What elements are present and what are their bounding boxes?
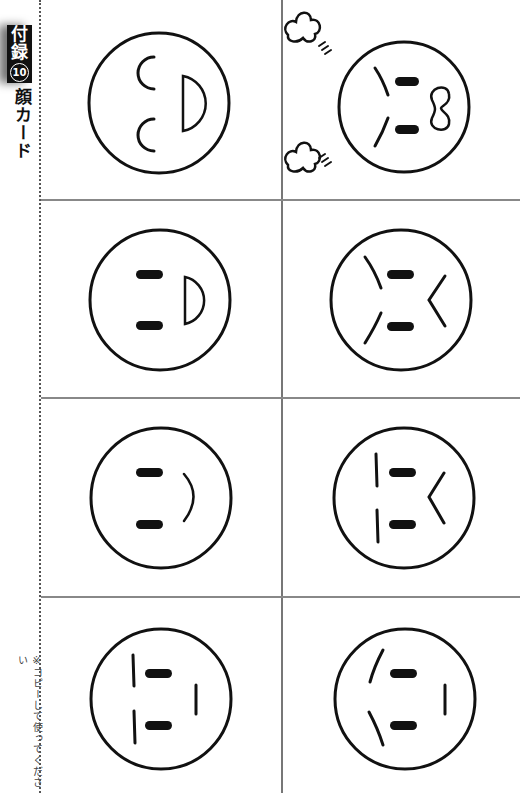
face-card-laughing bbox=[41, 0, 280, 198]
side-margin: 付 録 10 顔カード ※コピーして使ってください bbox=[0, 0, 40, 793]
face-card-angry bbox=[281, 199, 520, 397]
appendix-number: 10 bbox=[10, 63, 29, 82]
laughing-face-icon bbox=[41, 0, 280, 198]
happy-face-icon bbox=[41, 398, 280, 596]
sad-face-icon bbox=[281, 597, 520, 793]
tab-label-2: 録 bbox=[11, 43, 28, 61]
upset-face-icon bbox=[281, 398, 520, 596]
tab-label-1: 付 bbox=[11, 25, 28, 43]
face-card-angry-fuming bbox=[281, 0, 520, 198]
face-card-smiling-open bbox=[41, 199, 280, 397]
face-card-upset bbox=[281, 398, 520, 596]
face-card-neutral bbox=[41, 597, 280, 793]
angry-fuming-face-icon bbox=[281, 0, 520, 198]
face-card-happy bbox=[41, 398, 280, 596]
angry-face-icon bbox=[281, 199, 520, 397]
smiling-open-face-icon bbox=[41, 199, 280, 397]
appendix-tab: 付 録 10 bbox=[7, 25, 32, 83]
face-card-sad bbox=[281, 597, 520, 793]
page-title: 顔カード bbox=[8, 88, 32, 160]
face-card-grid bbox=[41, 0, 520, 793]
neutral-face-icon bbox=[41, 597, 280, 793]
